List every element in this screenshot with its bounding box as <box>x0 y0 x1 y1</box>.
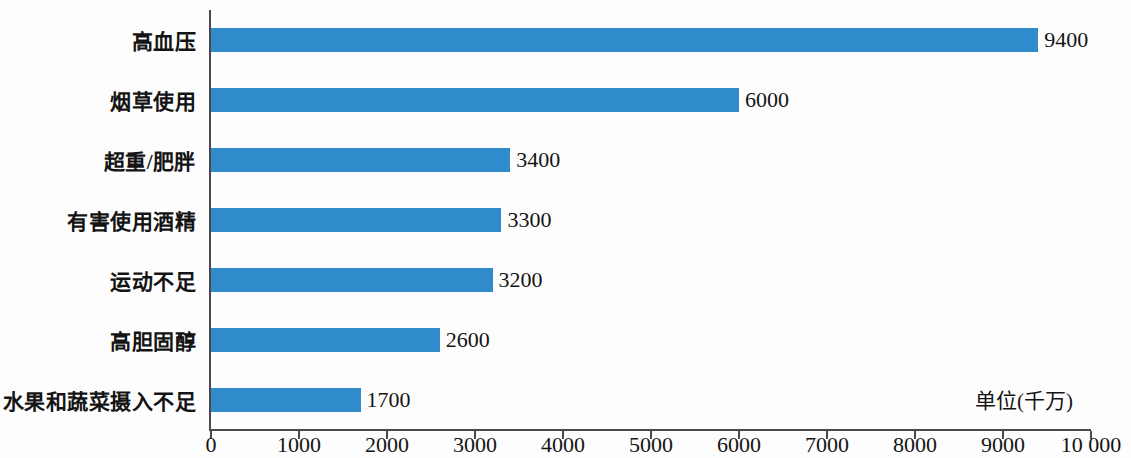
bar <box>211 208 501 232</box>
bar <box>211 328 440 352</box>
bar-row: 高血压9400 <box>0 10 1131 70</box>
category-label: 高血压 <box>132 25 197 55</box>
bar <box>211 268 493 292</box>
category-label: 有害使用酒精 <box>67 205 196 235</box>
bar <box>211 388 361 412</box>
x-tick-label: 8000 <box>893 432 937 458</box>
bar-value-label: 2600 <box>440 327 490 353</box>
x-tick-label: 6000 <box>717 432 761 458</box>
bar-row: 运动不足3200 <box>0 250 1131 310</box>
bar-row: 超重/肥胖3400 <box>0 130 1131 190</box>
bar-row: 有害使用酒精3300 <box>0 190 1131 250</box>
bar-value-label: 9400 <box>1038 27 1088 53</box>
x-tick-label: 2000 <box>365 432 409 458</box>
bar-row: 水果和蔬菜摄入不足1700 <box>0 370 1131 430</box>
x-tick-label: 9000 <box>981 432 1025 458</box>
category-label: 烟草使用 <box>110 85 196 115</box>
bar-row: 烟草使用6000 <box>0 70 1131 130</box>
bar-value-label: 3300 <box>501 207 551 233</box>
bar-value-label: 3400 <box>510 147 560 173</box>
bar <box>211 148 510 172</box>
bar-chart: 高血压9400烟草使用6000超重/肥胖3400有害使用酒精3300运动不足32… <box>0 0 1131 458</box>
bar-value-label: 1700 <box>361 387 411 413</box>
category-label: 运动不足 <box>110 265 196 295</box>
x-tick-label: 3000 <box>453 432 497 458</box>
unit-annotation: 单位(千万) <box>975 384 1073 414</box>
x-tick-label: 10 000 <box>1061 432 1122 458</box>
x-tick-label: 1000 <box>277 432 321 458</box>
category-label: 水果和蔬菜摄入不足 <box>3 385 197 415</box>
bar-value-label: 3200 <box>493 267 543 293</box>
x-tick-label: 0 <box>206 432 217 458</box>
category-label: 高胆固醇 <box>110 325 196 355</box>
x-tick-label: 4000 <box>541 432 585 458</box>
plot-area: 高血压9400烟草使用6000超重/肥胖3400有害使用酒精3300运动不足32… <box>0 0 1131 458</box>
category-label: 超重/肥胖 <box>104 145 196 175</box>
bar <box>211 28 1038 52</box>
bar-value-label: 6000 <box>739 87 789 113</box>
bar-row: 高胆固醇2600 <box>0 310 1131 370</box>
x-tick-label: 5000 <box>629 432 673 458</box>
bar <box>211 88 739 112</box>
x-tick-label: 7000 <box>805 432 849 458</box>
